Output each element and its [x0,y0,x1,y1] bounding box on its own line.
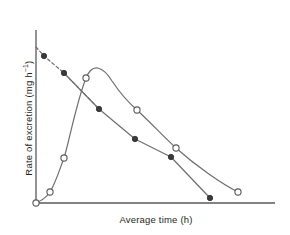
data-point-closed [168,154,173,159]
data-point-open [83,75,89,81]
data-point-closed [96,106,101,111]
data-point-open [61,155,67,161]
data-point-open [47,189,53,195]
data-point-open [33,200,39,206]
data-point-open [134,107,140,113]
chart-plot-area [0,0,290,235]
x-axis-label-text: Average time (h) [119,214,192,225]
chart-figure: Rate of excretion (mg h−1) Average time … [0,0,290,235]
y-axis-label-units-exponent: −1 [22,64,29,72]
data-point-open [235,189,241,195]
series-open-curve [36,68,238,203]
data-point-closed [61,70,66,75]
y-axis-label-text: Rate of excretion [23,100,34,175]
data-point-open [173,145,179,151]
y-axis-label-units-close: ) [23,61,34,64]
y-axis-label-units-open: (mg h [23,72,34,97]
data-point-closed [207,195,212,200]
data-point-closed [132,136,137,141]
series-closed-line [64,73,210,198]
x-axis-label: Average time (h) [36,214,276,225]
data-point-closed [41,53,46,58]
y-axis-label: Rate of excretion (mg h−1) [22,43,34,193]
